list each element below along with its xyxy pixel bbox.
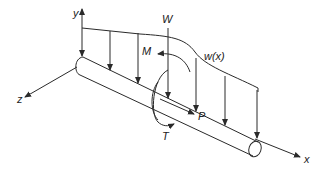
y-axis-label: y bbox=[72, 7, 80, 19]
moment-arrow bbox=[158, 54, 190, 72]
axial-force-label: P bbox=[198, 110, 206, 122]
x-axis-label: x bbox=[303, 153, 310, 165]
z-axis-label: z bbox=[16, 93, 23, 105]
distributed-load bbox=[82, 28, 258, 138]
distributed-load-label: w(x) bbox=[204, 50, 225, 62]
beam bbox=[76, 57, 264, 159]
axial-force bbox=[160, 99, 194, 114]
beam-diagram: y z x w(x) W M T bbox=[0, 0, 319, 174]
torque-label: T bbox=[162, 130, 170, 142]
moment-label: M bbox=[142, 45, 152, 57]
z-axis bbox=[25, 67, 77, 97]
point-load-label: W bbox=[162, 13, 174, 25]
